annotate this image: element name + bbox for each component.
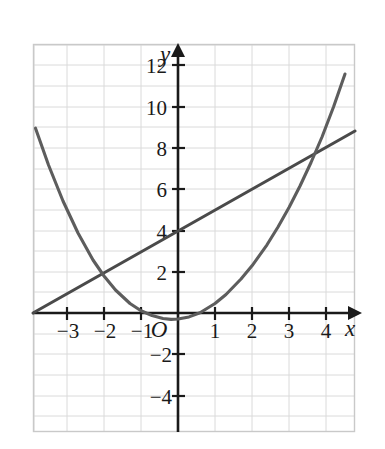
y-tick-label-8: 8 xyxy=(157,137,168,161)
x-tick-label-3: 3 xyxy=(284,319,295,343)
x-axis-label: x xyxy=(344,316,356,341)
x-tick-label-2: 2 xyxy=(247,319,258,343)
x-tick-label-4: 4 xyxy=(321,319,332,343)
origin-label: O xyxy=(151,317,168,342)
cartesian-graph: 12 10 8 6 4 2 −2 −4 −3 −2 −1 1 2 3 4 O y… xyxy=(0,0,385,449)
y-axis-label: y xyxy=(158,42,171,67)
x-tick-label-neg2: −2 xyxy=(94,319,116,343)
graph-figure: 12 10 8 6 4 2 −2 −4 −3 −2 −1 1 2 3 4 O y… xyxy=(0,0,385,449)
x-tick-label-neg3: −3 xyxy=(57,319,79,343)
x-tick-label-1: 1 xyxy=(210,319,221,343)
y-tick-label-6: 6 xyxy=(157,178,168,202)
y-tick-label-neg2: −2 xyxy=(150,343,172,367)
y-tick-label-2: 2 xyxy=(157,261,168,285)
y-tick-label-neg4: −4 xyxy=(150,385,173,409)
y-tick-label-10: 10 xyxy=(146,96,167,120)
